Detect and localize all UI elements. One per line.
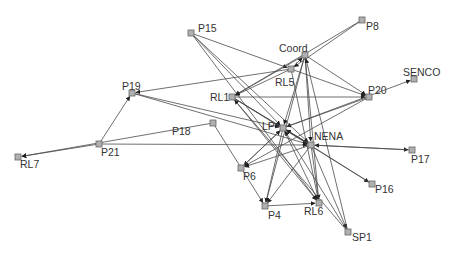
node-label-p16: P16: [375, 184, 394, 195]
node-label-lp: LP: [262, 121, 275, 132]
node-label-rl1: RL1: [210, 92, 229, 103]
node-label-sp1: SP1: [352, 232, 372, 243]
node-label-p15: P15: [198, 23, 217, 34]
node-label-rl7: RL7: [20, 159, 39, 170]
network-diagram: P15P8CoordRL5SENCOP20P19RL1P18P21RL7LPNE…: [0, 0, 450, 253]
edge-p15-to-rl5: [191, 33, 287, 68]
node-label-p21: P21: [101, 147, 120, 158]
edge-p15-to-lp: [191, 33, 280, 125]
node-label-nena: NENA: [314, 131, 343, 142]
edge-lp-to-senco: [283, 80, 410, 128]
node-label-coord: Coord: [279, 43, 308, 54]
edge-rl1-to-rl6: [232, 97, 316, 200]
edge-p21-to-rl7: [22, 144, 99, 156]
node-rl5[interactable]: [288, 66, 294, 72]
edge-rl5-to-p19: [136, 69, 291, 92]
node-rl1[interactable]: [229, 94, 235, 100]
edge-p21-to-p19: [99, 96, 130, 144]
node-label-p18: P18: [172, 126, 191, 137]
edge-rl5-to-p20: [291, 69, 365, 96]
node-p15[interactable]: [188, 30, 194, 36]
node-label-p17: P17: [411, 154, 430, 165]
edge-p19-to-lp: [132, 93, 279, 127]
edge-nena-to-p4: [267, 145, 311, 203]
edge-p21-to-nena: [99, 144, 307, 145]
node-sp1[interactable]: [345, 229, 351, 235]
node-p18[interactable]: [210, 120, 216, 126]
node-p8[interactable]: [359, 17, 365, 23]
node-lp[interactable]: [280, 125, 286, 131]
node-label-p20: P20: [368, 85, 387, 96]
node-layer: [15, 17, 417, 235]
edge-layer: [22, 20, 412, 232]
network-graph-svg: [0, 0, 450, 253]
edge-coord-to-p20: [305, 55, 366, 95]
node-label-p4: P4: [268, 210, 281, 221]
node-label-p6: P6: [243, 171, 256, 182]
edge-sp1-to-rl1: [235, 100, 348, 232]
node-label-senco: SENCO: [403, 67, 440, 78]
node-label-p19: P19: [122, 81, 141, 92]
edge-p18-to-p4: [213, 123, 263, 203]
node-label-rl5: RL5: [275, 77, 294, 88]
node-label-p8: P8: [366, 21, 379, 32]
node-label-rl6: RL6: [304, 206, 323, 217]
edge-p17-to-nena: [315, 145, 412, 150]
node-nena[interactable]: [308, 142, 314, 148]
